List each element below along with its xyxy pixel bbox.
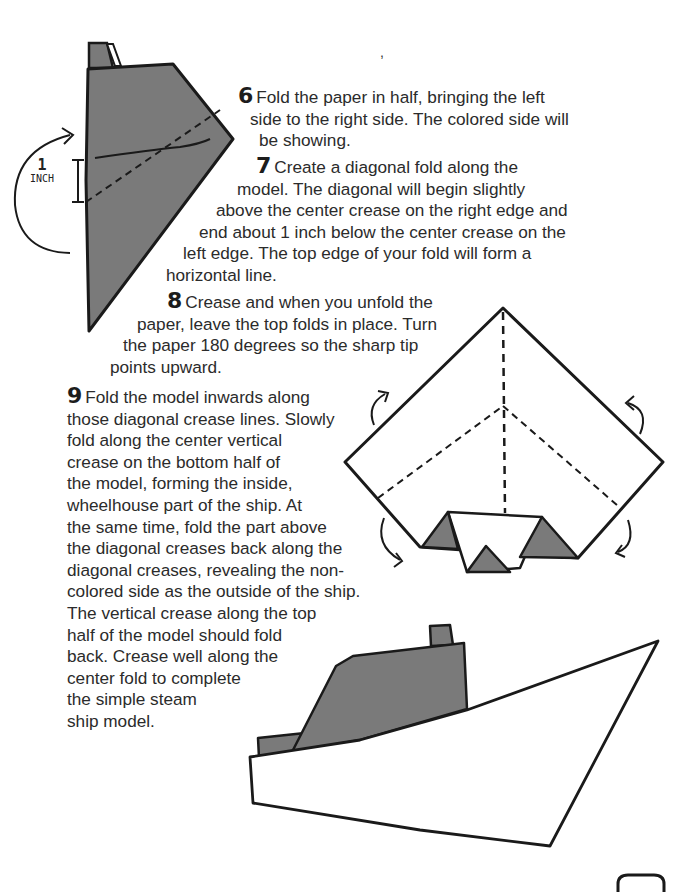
step-8-line-4: points upward. <box>110 357 437 379</box>
step-9-line-3: fold along the center vertical <box>67 430 360 452</box>
step-7-line-1: Create a diagonal fold along the <box>274 157 518 177</box>
arrowhead-lower-left-icon <box>394 553 402 567</box>
step-8-line-2: paper, leave the top folds in place. Tur… <box>110 314 437 336</box>
one-inch-measure-bracket <box>72 160 84 202</box>
step-7-instruction: 7Create a diagonal fold along the model.… <box>166 155 568 287</box>
fold-over-arrow <box>15 135 70 253</box>
step-9-line-1: Fold the model inwards along <box>85 387 310 407</box>
step-8-instruction: 8Crease and when you unfold the paper, l… <box>110 290 437 378</box>
step-8-line-3: the paper 180 degrees so the sharp tip <box>110 335 437 357</box>
step-9-line-9: diagonal creases, revealing the non- <box>67 560 360 582</box>
page-number-box <box>618 875 664 892</box>
step-7-line-2: model. The diagonal will begin slightly <box>166 179 568 201</box>
step-9-line-6: wheelhouse part of the ship. At <box>67 495 360 517</box>
step-9-line-16: ship model. <box>67 711 360 733</box>
step-6-instruction: 6Fold the paper in half, bringing the le… <box>238 85 569 152</box>
step-7-line-6: horizontal line. <box>166 265 568 287</box>
step-6-number: 6 <box>238 83 253 108</box>
arrowhead-upper-left-icon <box>378 391 388 402</box>
step-7-line-3: above the center crease on the right edg… <box>166 200 568 222</box>
step-9-line-2: those diagonal crease lines. Slowly <box>67 409 360 431</box>
step-6-line-1: Fold the paper in half, bringing the lef… <box>256 87 545 107</box>
step-7-line-5: left edge. The top edge of your fold wil… <box>166 243 568 265</box>
step-9-line-8: the diagonal creases back along the <box>67 538 360 560</box>
fold-back-arrow-upper-left <box>372 394 385 425</box>
step-8-number: 8 <box>167 288 182 313</box>
step-9-number: 9 <box>67 383 82 408</box>
step-9-line-15: the simple steam <box>67 689 360 711</box>
measure-label: 1 INCH <box>18 158 66 185</box>
step-9-line-12: half of the model should fold <box>67 625 360 647</box>
step-9-line-11: The vertical crease along the top <box>67 603 360 625</box>
measure-unit: INCH <box>18 173 66 185</box>
step-9-instruction: 9Fold the model inwards along those diag… <box>67 385 360 733</box>
step-6-line-3: be showing. <box>238 130 569 152</box>
step-7-line-4: end about 1 inch below the center crease… <box>166 222 568 244</box>
step-7-number: 7 <box>256 153 271 178</box>
step-9-line-13: back. Crease well along the <box>67 646 360 668</box>
step-9-line-7: the same time, fold the part above <box>67 517 360 539</box>
step-9-line-14: center fold to complete <box>67 668 360 690</box>
measure-value: 1 <box>18 158 66 173</box>
ship-chimney <box>430 625 453 646</box>
step-9-line-10: colored side as the outside of the ship. <box>67 581 360 603</box>
step-9-line-4: crease on the bottom half of <box>67 452 360 474</box>
step-8-line-1: Crease and when you unfold the <box>185 292 432 312</box>
step-6-line-2: side to the right side. The colored side… <box>238 109 569 131</box>
step-9-line-5: the model, forming the inside, <box>67 473 360 495</box>
